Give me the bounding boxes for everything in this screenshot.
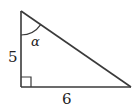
hypotenuse <box>21 11 131 87</box>
angle-label: α <box>31 34 40 49</box>
vertical-side-label: 5 <box>8 48 18 66</box>
right-angle-marker <box>21 77 31 87</box>
triangle-diagram: α 5 6 <box>0 0 136 106</box>
horizontal-side-label: 6 <box>62 90 72 106</box>
